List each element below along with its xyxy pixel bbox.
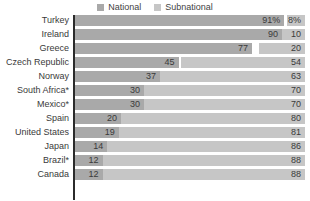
bar-value-subnational: 70 [75, 85, 301, 96]
bar-row: Ireland9010 [0, 29, 310, 40]
bar-value-subnational: 86 [75, 141, 301, 152]
bar-row-label: Spain [0, 113, 69, 124]
bar-value-subnational: 80 [75, 113, 301, 124]
legend-label: National [108, 3, 141, 12]
plot-area: Turkey91%8%Ireland9010Greece7720Czech Re… [0, 15, 310, 201]
bar-track: 3070 [75, 99, 305, 110]
bar-track: 2080 [75, 113, 305, 124]
bar-row: Spain2080 [0, 113, 310, 124]
bar-track: 3763 [75, 71, 305, 82]
bar-track: 1981 [75, 127, 305, 138]
bar-track: 1288 [75, 155, 305, 166]
bar-value-subnational: 63 [75, 71, 301, 82]
bar-row: Turkey91%8% [0, 15, 310, 26]
bar-row-label: United States [0, 127, 69, 138]
bar-track: 7720 [75, 43, 305, 54]
bar-row-label: Brazil* [0, 155, 69, 166]
bar-row-label: Norway [0, 71, 69, 82]
bar-row-label: South Africa* [0, 85, 69, 96]
bar-row-label: Greece [0, 43, 69, 54]
bar-row: Greece7720 [0, 43, 310, 54]
chart-legend: NationalSubnational [0, 1, 310, 14]
bar-rows: Turkey91%8%Ireland9010Greece7720Czech Re… [0, 15, 310, 183]
bar-row: Japan1486 [0, 141, 310, 152]
stacked-bar-chart: NationalSubnational Turkey91%8%Ireland90… [0, 0, 310, 201]
bar-value-subnational: 70 [75, 99, 301, 110]
legend-label: Subnational [165, 3, 213, 12]
bar-row: Czech Republic4554 [0, 57, 310, 68]
bar-value-subnational: 88 [75, 169, 301, 180]
bar-track: 1288 [75, 169, 305, 180]
bar-track: 1486 [75, 141, 305, 152]
legend-entry[interactable]: Subnational [154, 3, 213, 12]
square-swatch-icon [97, 4, 104, 11]
bar-row: South Africa*3070 [0, 85, 310, 96]
bar-row-label: Mexico* [0, 99, 69, 110]
bar-row: Mexico*3070 [0, 99, 310, 110]
bar-row-label: Canada [0, 169, 69, 180]
bar-track: 91%8% [75, 15, 305, 26]
bar-value-subnational: 8% [75, 15, 301, 26]
bar-row: United States1981 [0, 127, 310, 138]
bar-track: 3070 [75, 85, 305, 96]
bar-track: 4554 [75, 57, 305, 68]
bar-track: 9010 [75, 29, 305, 40]
bar-value-subnational: 81 [75, 127, 301, 138]
bar-value-subnational: 10 [75, 29, 301, 40]
bar-value-subnational: 20 [75, 43, 301, 54]
bar-value-subnational: 54 [75, 57, 301, 68]
bar-row-label: Ireland [0, 29, 69, 40]
bar-row: Norway3763 [0, 71, 310, 82]
bar-row: Brazil*1288 [0, 155, 310, 166]
legend-entry[interactable]: National [97, 3, 141, 12]
bar-row-label: Japan [0, 141, 69, 152]
bar-value-subnational: 88 [75, 155, 301, 166]
square-swatch-icon [154, 4, 161, 11]
bar-row-label: Czech Republic [0, 57, 69, 68]
bar-row: Canada1288 [0, 169, 310, 180]
bar-row-label: Turkey [0, 15, 69, 26]
